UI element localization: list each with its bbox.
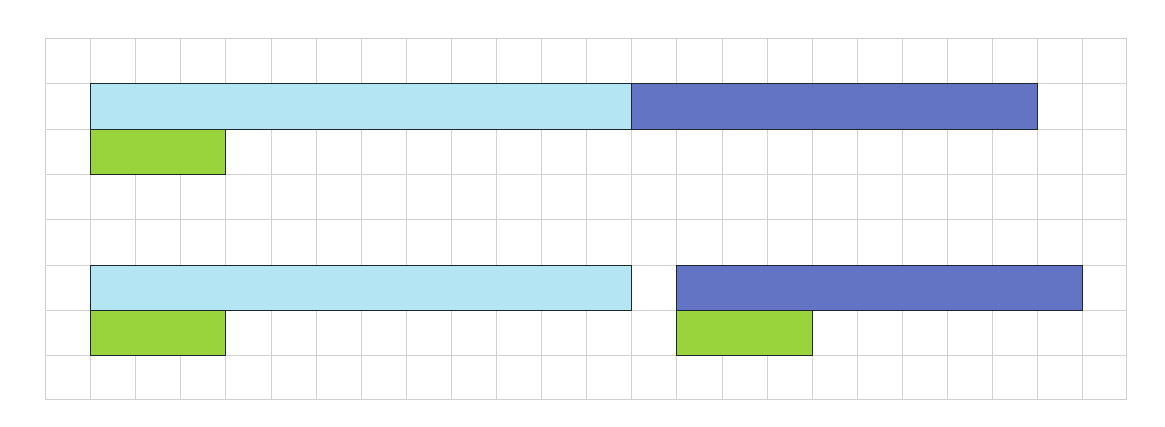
bottom-dark-blue-bar (676, 265, 1083, 311)
bottom-green-bar (676, 310, 812, 356)
top-green-bar (90, 129, 226, 175)
bottom-light-blue-bar (90, 265, 632, 311)
bottom-left-green-bar (90, 310, 226, 356)
grid-paper (45, 38, 1127, 400)
top-dark-blue-bar (631, 83, 1038, 129)
grid-line-horizontal (46, 219, 1126, 220)
top-light-blue-bar (90, 83, 632, 129)
